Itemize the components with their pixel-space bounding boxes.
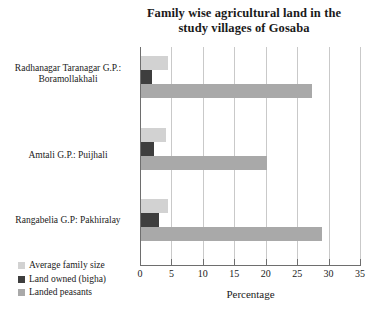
x-axis-tick-label: 35 — [347, 268, 373, 279]
plot-area — [140, 47, 360, 265]
legend-item: Landed peasants — [18, 286, 106, 300]
y-axis-category-label-line: Rangabelia G.P: Pakhiralay — [4, 215, 132, 226]
legend-item: Land owned (bigha) — [18, 273, 106, 287]
legend-swatch-icon — [18, 289, 25, 296]
bar — [140, 70, 152, 84]
bar — [140, 142, 154, 156]
y-axis-category-label: Radhanagar Taranagar G.P.:Boramollakhali — [4, 63, 132, 85]
x-axis-tick — [266, 259, 267, 266]
bar — [140, 56, 168, 70]
y-axis-line — [140, 47, 141, 266]
x-axis-tick-label: 10 — [190, 268, 216, 279]
x-axis-tick — [234, 259, 235, 266]
chart-legend: Average family sizeLand owned (bigha)Lan… — [18, 259, 106, 300]
x-axis-title: Percentage — [140, 288, 361, 300]
legend-label: Average family size — [29, 259, 105, 273]
chart-title-line-1: Family wise agricultural land in the — [118, 6, 370, 21]
bar — [140, 156, 267, 170]
x-axis-tick — [297, 259, 298, 266]
x-axis-tick-label: 0 — [127, 268, 153, 279]
x-axis-tick — [329, 259, 330, 266]
x-axis-tick — [171, 259, 172, 266]
x-axis-tick — [360, 259, 361, 266]
y-axis-category-label-line: Radhanagar Taranagar G.P.: — [4, 63, 132, 74]
bar — [140, 128, 166, 142]
bar — [140, 213, 159, 227]
y-axis-category-label: Rangabelia G.P: Pakhiralay — [4, 215, 132, 226]
y-axis-category-label-line: Amtali G.P.: Puijhali — [4, 150, 132, 161]
bar — [140, 84, 312, 98]
chart-title-line-2: study villages of Gosaba — [118, 21, 370, 36]
legend-label: Land owned (bigha) — [29, 273, 106, 287]
x-axis-tick-label: 15 — [221, 268, 247, 279]
legend-item: Average family size — [18, 259, 106, 273]
x-axis-tick — [203, 259, 204, 266]
chart-container: Family wise agricultural land in the stu… — [0, 0, 386, 324]
x-axis-tick-label: 5 — [158, 268, 184, 279]
legend-label: Landed peasants — [29, 286, 92, 300]
gridline — [360, 47, 361, 265]
bar — [140, 227, 322, 241]
y-axis-category-label: Amtali G.P.: Puijhali — [4, 150, 132, 161]
legend-swatch-icon — [18, 276, 25, 283]
x-axis-tick — [140, 259, 141, 266]
chart-title: Family wise agricultural land in the stu… — [118, 6, 370, 36]
x-axis-tick-label: 20 — [253, 268, 279, 279]
legend-swatch-icon — [18, 262, 25, 269]
x-axis-tick-label: 30 — [316, 268, 342, 279]
y-axis-category-label-line: Boramollakhali — [4, 74, 132, 85]
gridline — [329, 47, 330, 265]
x-axis-tick-label: 25 — [284, 268, 310, 279]
bar — [140, 199, 168, 213]
